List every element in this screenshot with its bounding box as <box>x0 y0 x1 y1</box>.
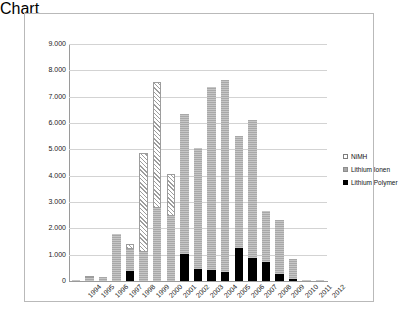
gridline <box>69 97 327 98</box>
x-axis-tick-label: 2007 <box>263 283 280 300</box>
bar-2002 <box>180 114 188 281</box>
x-axis-tick-label: 2002 <box>195 283 212 300</box>
x-axis: 1994199519961997199819992000200120022003… <box>69 283 328 316</box>
x-axis-tick-label: 1996 <box>114 283 131 300</box>
bar-1998 <box>126 244 134 281</box>
bar-1995 <box>85 276 93 281</box>
bar-segment <box>275 220 283 274</box>
bar-segment <box>207 87 215 270</box>
bar-segment <box>248 258 256 281</box>
x-axis-line <box>69 281 328 282</box>
y-axis: 01.0002.0003.0004.0005.0006.0007.0008.00… <box>25 14 66 303</box>
x-axis-tick-label: 2009 <box>290 283 307 300</box>
legend-item: NiMH <box>343 153 399 160</box>
bar-1999 <box>139 153 147 281</box>
bar-segment <box>235 136 243 248</box>
bar-segment <box>126 249 134 271</box>
bar-2001 <box>167 174 175 281</box>
x-axis-tick-label: 2011 <box>317 283 333 299</box>
bar-1996 <box>99 277 107 281</box>
bar-segment <box>302 280 310 281</box>
y-axis-tick-label: 0 <box>62 277 66 284</box>
y-axis-tick-label: 8.000 <box>48 66 66 73</box>
bar-segment <box>207 270 215 281</box>
bar-segment <box>180 114 188 254</box>
bar-1994 <box>72 280 80 281</box>
lithium-polymer-marker <box>343 180 348 185</box>
bar-segment <box>126 271 134 281</box>
bar-2000 <box>153 82 161 281</box>
plot-area <box>69 44 327 281</box>
legend-item-label: Lithium Ionen <box>351 166 390 173</box>
bar-segment <box>289 279 297 281</box>
x-axis-tick-label: 1998 <box>141 283 158 300</box>
bar-segment <box>235 248 243 281</box>
bar-2005 <box>221 80 229 281</box>
bar-segment <box>139 153 147 252</box>
x-axis-tick-label: 2005 <box>236 283 253 300</box>
bar-segment <box>316 280 324 281</box>
bar-segment <box>221 80 229 272</box>
bar-2011 <box>302 280 310 281</box>
bar-segment <box>221 272 229 281</box>
x-axis-tick-label: 1995 <box>100 283 117 300</box>
bar-2004 <box>207 87 215 281</box>
y-axis-tick-label: 3.000 <box>48 198 66 205</box>
bar-segment <box>112 234 120 281</box>
bar-segment <box>153 208 161 281</box>
y-axis-tick-label: 4.000 <box>48 172 66 179</box>
bar-2003 <box>194 148 202 282</box>
chart-legend: NiMHLithium IonenLithium Polymer <box>343 153 399 192</box>
bar-segment <box>167 174 175 217</box>
bar-segment <box>194 269 202 281</box>
bar-segment <box>275 274 283 281</box>
bar-segment <box>248 120 256 257</box>
y-axis-tick-label: 1.000 <box>48 251 66 258</box>
legend-item: Lithium Ionen <box>343 166 399 173</box>
legend-item-label: Lithium Polymer <box>351 179 398 186</box>
bar-2010 <box>289 259 297 281</box>
bar-segment <box>180 254 188 281</box>
x-axis-tick-label: 2012 <box>331 283 348 300</box>
nimh-marker <box>343 154 348 159</box>
bar-segment <box>289 259 297 280</box>
bar-2007 <box>248 120 256 281</box>
chart-frame: 01.0002.0003.0004.0005.0006.0007.0008.00… <box>24 13 374 302</box>
y-axis-tick-label: 5.000 <box>48 145 66 152</box>
legend-item-label: NiMH <box>351 153 367 160</box>
bar-1997 <box>112 234 120 281</box>
gridline <box>69 70 327 71</box>
bar-segment <box>139 252 147 281</box>
y-axis-tick-label: 6.000 <box>48 119 66 126</box>
bar-segment <box>153 82 161 208</box>
gridline <box>69 44 327 45</box>
bar-segment <box>262 211 270 262</box>
bar-2012 <box>316 280 324 281</box>
gridline <box>69 123 327 124</box>
x-axis-tick-label: 1997 <box>127 283 144 300</box>
x-axis-tick-label: 2003 <box>209 283 226 300</box>
legend-item: Lithium Polymer <box>343 179 399 186</box>
bar-2009 <box>275 220 283 281</box>
bar-segment <box>85 278 93 281</box>
bar-segment <box>167 216 175 281</box>
bar-2006 <box>235 136 243 281</box>
bar-2008 <box>262 211 270 281</box>
x-axis-tick-label: 2000 <box>168 283 185 300</box>
bar-segment <box>99 277 107 281</box>
bar-segment <box>72 280 80 281</box>
y-axis-tick-label: 2.000 <box>48 224 66 231</box>
y-axis-tick-label: 9.000 <box>48 40 66 47</box>
bar-segment <box>262 262 270 281</box>
y-axis-tick-label: 7.000 <box>48 93 66 100</box>
lithium-ionen-marker <box>343 167 348 172</box>
bar-segment <box>194 148 202 269</box>
